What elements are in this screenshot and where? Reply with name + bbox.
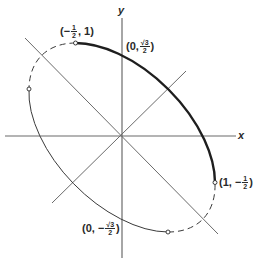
point-marker-p1 [74, 41, 78, 45]
point-label-p3-suffix: ) [249, 177, 253, 188]
y-axis-label: y [118, 5, 124, 16]
thin-arc [29, 89, 168, 232]
denominator: 2 [108, 229, 112, 236]
point-label-p4: (0, − √3 2 ) [82, 221, 120, 236]
fraction: 1 2 [71, 24, 77, 39]
left-marker [27, 87, 31, 91]
denominator: 2 [143, 47, 147, 54]
fraction: 1 2 [242, 175, 248, 190]
denominator: 2 [243, 183, 247, 190]
point-label-p3-prefix: (1, − [219, 177, 241, 188]
point-label-p4-prefix: (0, − [82, 223, 104, 234]
bottom-marker [166, 230, 170, 234]
fraction: √3 2 [140, 39, 150, 54]
point-label-p2: (0, √3 2 ) [126, 39, 154, 54]
fraction: √3 2 [105, 221, 115, 236]
numerator: 1 [242, 175, 248, 183]
numerator: √3 [140, 39, 150, 47]
x-axis-label: x [238, 130, 244, 141]
point-label-p2-prefix: (0, [126, 41, 139, 52]
point-label-p2-suffix: ) [151, 41, 155, 52]
point-label-p4-suffix: ) [116, 223, 120, 234]
diagonal-y-equals-x [52, 71, 186, 203]
denominator: 2 [72, 32, 76, 39]
highlighted-arc [76, 43, 216, 183]
numerator: √3 [105, 221, 115, 229]
point-label-p1-prefix: (− [60, 26, 70, 37]
point-label-p1: (− 1 2 , 1) [60, 24, 94, 39]
point-marker-p3 [213, 181, 217, 185]
point-label-p3: (1, − 1 2 ) [219, 175, 253, 190]
numerator: 1 [71, 24, 77, 32]
point-label-p1-suffix: , 1) [78, 26, 94, 37]
